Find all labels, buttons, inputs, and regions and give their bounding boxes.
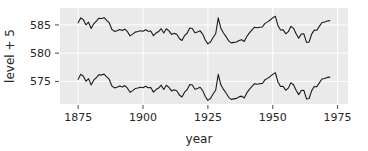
chart-figure: 18751900192519501975 575580585 year leve… [0, 0, 368, 151]
x-tick-label: 1900 [129, 111, 157, 124]
y-axis-ticks: 575580585 [30, 19, 59, 88]
line-chart: 18751900192519501975 575580585 year leve… [0, 0, 368, 151]
y-tick-label: 575 [30, 75, 51, 88]
y-axis-title: level + 5 [3, 29, 17, 83]
y-tick-label: 580 [30, 47, 51, 60]
x-axis-title: year [186, 132, 213, 146]
x-tick-label: 1950 [259, 111, 287, 124]
y-tick-label: 585 [30, 19, 51, 32]
plot-background [60, 8, 348, 104]
x-tick-label: 1875 [64, 111, 92, 124]
x-tick-label: 1925 [194, 111, 222, 124]
plot-area-background [60, 8, 348, 104]
x-tick-label: 1975 [324, 111, 352, 124]
x-axis-ticks: 18751900192519501975 [64, 105, 351, 124]
